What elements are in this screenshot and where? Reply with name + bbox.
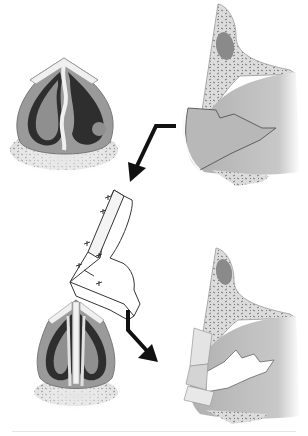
lateral-view-before — [184, 4, 300, 186]
septal-graft — [70, 190, 140, 320]
medical-illustration — [0, 0, 308, 436]
cross-section-before — [6, 58, 122, 178]
bottom-divider — [12, 431, 296, 432]
arrow-to-after — [128, 310, 158, 362]
arrow-to-graft — [128, 126, 176, 182]
lateral-view-after — [184, 248, 300, 424]
cross-section-after — [30, 300, 122, 412]
